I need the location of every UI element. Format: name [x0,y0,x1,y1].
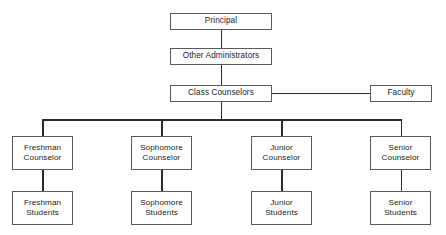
node-junior-counselor[interactable]: Junior Counselor [251,136,312,170]
org-chart: Principal Other Administrators Class Cou… [0,0,446,235]
node-sophomore-counselor-label-line2: Counselor [143,153,181,163]
connector-class-counselors-to-distribution-bar [221,101,223,120]
node-freshman-students-label-line2: Students [26,208,59,218]
node-sophomore-counselor[interactable]: Sophomore Counselor [131,136,192,170]
node-senior-counselor-label-line2: Counselor [382,153,420,163]
connector-junior-counselor-to-students [281,170,283,191]
connector-principal-to-other-administrators [221,30,223,48]
node-junior-counselor-label-line2: Counselor [263,153,301,163]
connector-other-administrators-to-class-counselors [221,64,223,85]
node-senior-students-label-line2: Students [384,208,417,218]
connector-bar-to-senior-counselor [401,119,403,136]
node-freshman-counselor-label-line1: Freshman [24,143,61,153]
node-other-administrators-label: Other Administrators [183,51,260,61]
node-class-counselors[interactable]: Class Counselors [170,85,272,102]
node-faculty-label: Faculty [387,88,414,98]
node-class-counselors-label: Class Counselors [188,88,254,98]
node-principal-label: Principal [205,16,237,26]
connector-bar-to-freshman-counselor [42,119,44,136]
node-senior-counselor[interactable]: Senior Counselor [370,136,431,170]
node-sophomore-students-label-line2: Students [145,208,178,218]
connector-bar-to-sophomore-counselor [161,119,163,136]
node-principal[interactable]: Principal [170,13,272,30]
node-sophomore-counselor-label-line1: Sophomore [140,143,183,153]
connector-bar-to-junior-counselor [281,119,283,136]
node-freshman-students-label-line1: Freshman [24,198,61,208]
connector-sophomore-counselor-to-students [161,170,163,191]
connector-freshman-counselor-to-students [42,170,44,191]
node-faculty[interactable]: Faculty [370,85,432,102]
node-senior-counselor-label-line1: Senior [389,143,413,153]
node-junior-students-label-line1: Junior [270,198,293,208]
node-junior-counselor-label-line1: Junior [270,143,293,153]
node-junior-students[interactable]: Junior Students [251,191,312,225]
node-sophomore-students[interactable]: Sophomore Students [131,191,192,225]
node-freshman-counselor[interactable]: Freshman Counselor [12,136,73,170]
connector-distribution-bar [42,119,402,121]
node-senior-students-label-line1: Senior [389,198,413,208]
node-junior-students-label-line2: Students [265,208,298,218]
node-freshman-counselor-label-line2: Counselor [24,153,62,163]
node-senior-students[interactable]: Senior Students [370,191,431,225]
connector-senior-counselor-to-students [401,170,403,191]
node-other-administrators[interactable]: Other Administrators [170,48,272,65]
node-sophomore-students-label-line1: Sophomore [140,198,183,208]
node-freshman-students[interactable]: Freshman Students [12,191,73,225]
connector-class-counselors-to-faculty [272,93,370,95]
